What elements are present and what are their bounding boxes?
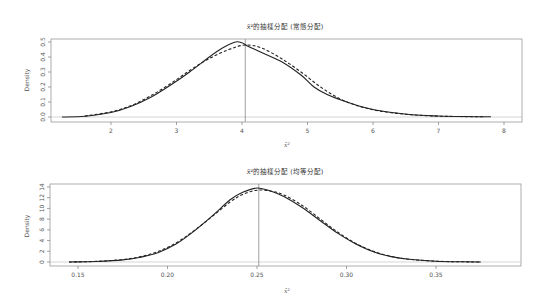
- x-tick-label: 7: [437, 127, 441, 134]
- bottom-x-axis-label: x̄²: [284, 287, 290, 294]
- x-tick-label: 0.30: [340, 271, 354, 278]
- y-tick-label: 6: [38, 228, 45, 232]
- y-tick-label: 8: [38, 217, 45, 221]
- x-tick-label: 0.25: [250, 271, 264, 278]
- bottom-theoretical-density-curve: [69, 190, 481, 262]
- bottom-empirical-density-curve: [69, 188, 481, 262]
- x-tick-label: 2: [109, 127, 113, 134]
- top-x-axis-label: x̄²: [284, 141, 290, 148]
- top-y-axis-label: Density: [23, 68, 31, 91]
- x-tick-label: 6: [371, 127, 375, 134]
- top-y-axis: 0.00.10.20.30.40.5: [39, 37, 51, 122]
- y-tick-label: 0.4: [39, 52, 46, 62]
- x-tick-label: 3: [175, 127, 179, 134]
- x-tick-label: 0.15: [71, 271, 85, 278]
- x-tick-label: 0.20: [161, 271, 175, 278]
- x-tick-label: 5: [306, 127, 310, 134]
- y-tick-label: 0.3: [39, 67, 46, 77]
- y-tick-label: 2: [38, 249, 45, 253]
- top-density-plot: x̄²的抽樣分配 (常態分配) 0.00.10.20.30.40.5 23456…: [23, 22, 522, 148]
- figure-canvas: x̄²的抽樣分配 (常態分配) 0.00.10.20.30.40.5 23456…: [0, 0, 545, 306]
- bottom-y-axis: 02468101214: [38, 183, 50, 264]
- y-tick-label: 0.1: [39, 97, 46, 107]
- bottom-y-axis-label: Density: [23, 214, 31, 237]
- top-x-axis: 2345678: [109, 122, 506, 134]
- y-tick-label: 4: [38, 238, 45, 242]
- top-plot-title: x̄²的抽樣分配 (常態分配): [247, 22, 324, 31]
- y-tick-label: 0.5: [39, 37, 46, 47]
- bottom-x-axis: 0.150.200.250.300.35: [71, 266, 443, 278]
- x-tick-label: 4: [240, 127, 244, 134]
- top-empirical-density-curve: [62, 42, 491, 117]
- y-tick-label: 0: [38, 260, 45, 264]
- y-tick-label: 14: [38, 183, 45, 191]
- y-tick-label: 10: [38, 204, 45, 212]
- bottom-plot-title: x̄²的抽樣分配 (均等分配): [247, 167, 324, 176]
- top-theoretical-density-curve: [85, 45, 485, 117]
- y-tick-label: 12: [38, 194, 45, 202]
- bottom-density-plot: x̄²的抽樣分配 (均等分配) 02468101214 0.150.200.25…: [23, 167, 521, 294]
- y-tick-label: 0.2: [39, 82, 46, 92]
- x-tick-label: 8: [502, 127, 506, 134]
- y-tick-label: 0.0: [39, 112, 46, 122]
- x-tick-label: 0.35: [429, 271, 443, 278]
